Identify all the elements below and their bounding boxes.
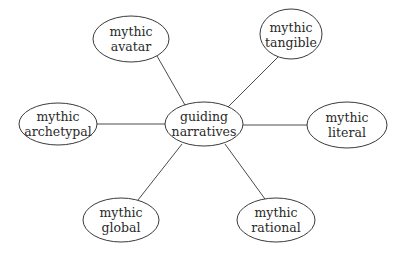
node-mythic-tangible: mythic tangible (260, 9, 322, 59)
node-mythic-rational: mythic rational (237, 198, 315, 242)
node-mythic-avatar-line2: avatar (111, 39, 151, 54)
node-mythic-rational-line1: mythic (255, 205, 298, 220)
edge-guiding-rational (225, 144, 265, 199)
node-mythic-avatar: mythic avatar (93, 16, 169, 62)
node-mythic-tangible-line1: mythic (270, 20, 313, 35)
node-mythic-literal-line1: mythic (326, 110, 369, 125)
guiding-narratives-diagram: mythic avatar mythic tangible mythic arc… (0, 0, 407, 258)
node-mythic-global-line2: global (102, 220, 141, 235)
node-guiding-narratives: guiding narratives (165, 102, 243, 146)
node-guiding-narratives-line1: guiding (180, 109, 228, 124)
node-mythic-literal: mythic literal (307, 102, 387, 148)
node-mythic-global: mythic global (83, 198, 159, 242)
edge-guiding-tangible (228, 57, 278, 107)
node-mythic-archetypal-line2: archetypal (24, 124, 91, 139)
edge-guiding-global (138, 144, 182, 200)
node-mythic-literal-line2: literal (328, 125, 366, 140)
node-mythic-global-line1: mythic (100, 205, 143, 220)
node-mythic-archetypal-line1: mythic (37, 109, 80, 124)
node-mythic-rational-line2: rational (251, 220, 300, 235)
node-guiding-narratives-line2: narratives (172, 124, 237, 139)
node-mythic-avatar-line1: mythic (110, 24, 153, 39)
edge-guiding-avatar (157, 56, 185, 105)
node-mythic-archetypal: mythic archetypal (19, 103, 97, 145)
node-mythic-tangible-line2: tangible (265, 35, 317, 50)
